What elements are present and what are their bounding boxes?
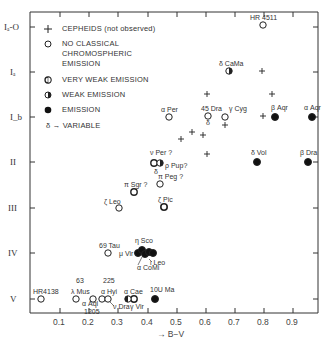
open-circle-icon: [260, 22, 266, 28]
label-zeta-leo: ζ Leo: [104, 198, 121, 206]
filled-circle-icon: [309, 114, 316, 121]
open-circle-icon: [73, 296, 79, 302]
open-circle-icon: [45, 41, 51, 47]
filled-circle-icon: [254, 159, 261, 166]
legend-no-emission-1: NO CLASSICAL: [62, 39, 119, 48]
open-circle-icon: [105, 296, 111, 302]
label-zeta-pic: ζ Pic: [158, 196, 173, 204]
label-45-dra: 45 Dra: [201, 105, 222, 112]
filled-circle-icon: [305, 159, 312, 166]
very-weak-circle-icon: [131, 296, 137, 302]
label-beta-aqr: β Aqr: [271, 104, 289, 112]
label-gamma-vir: γ Vir: [130, 303, 145, 311]
label-beta-dra: β Dra: [300, 149, 317, 157]
x-label-0.3: 0.3: [111, 317, 123, 327]
y-label-ib: I_b: [10, 112, 22, 122]
label-delta-cama: δ CaMa: [219, 60, 244, 67]
label-63: 63: [76, 277, 84, 284]
very-weak-circle-icon: [161, 204, 167, 210]
label-alpha-cae: α Cae: [124, 288, 143, 295]
half-filled-circle-icon: [45, 92, 51, 98]
open-circle-icon: [166, 114, 172, 120]
label-alpha-aqr: α Aqr: [304, 104, 322, 112]
plus-marker-icon: [269, 91, 275, 97]
y-label-ia: Iₐ: [10, 67, 16, 77]
y-label-iii: III: [8, 203, 17, 213]
very-weak-circle-icon: [151, 160, 157, 166]
plus-marker-icon: [204, 151, 210, 157]
label-nu-dra: ν Dra: [113, 303, 130, 310]
label-delta-vol: δ Vol: [251, 149, 267, 156]
plus-marker-icon: [260, 113, 266, 119]
open-circle-icon: [116, 205, 122, 211]
legend-emission: EMISSION: [62, 105, 100, 114]
hr-diagram-chart: Iₐ-O Iₐ I_b II III IV V 0.1 0.2 0.3 0.4 …: [0, 0, 332, 348]
label-alpha-aql: α Aql: [82, 300, 99, 308]
filled-circle-icon: [45, 107, 52, 114]
label-pi-peg: π Peg ?: [158, 173, 183, 181]
label-1205: 1205: [84, 308, 100, 315]
cepheid-markers: [178, 68, 275, 157]
label-alpha-comi: α CoMi: [137, 264, 160, 271]
legend-weak: WEAK EMISSION: [62, 90, 125, 99]
label-eta-sco: η Sco: [135, 237, 153, 245]
label-nu-per: ν Per ?: [150, 149, 172, 156]
y-label-ii: II: [10, 157, 16, 167]
open-circle-icon: [38, 296, 44, 302]
label-225: 225: [103, 277, 115, 284]
label-hr4138: HR4138: [33, 288, 59, 295]
label-pi-sgr: π Sgr ?: [124, 181, 148, 189]
plus-marker-icon: [178, 136, 184, 142]
label-rho-pup: ρ Pup?: [165, 162, 187, 170]
x-label-0.5: 0.5: [170, 317, 182, 327]
y-label-iao: Iₐ-O: [4, 22, 19, 32]
half-filled-circle-icon: [226, 68, 232, 74]
y-axis-labels: Iₐ-O Iₐ I_b II III IV V: [4, 22, 22, 304]
legend-cepheids: CEPHEIDS (not observed): [62, 24, 156, 33]
open-circle-icon: [157, 181, 163, 187]
x-label-0.7: 0.7: [228, 317, 240, 327]
filled-circle-icon: [152, 296, 159, 303]
very-weak-circle-icon: [131, 189, 137, 195]
open-circle-icon: [99, 296, 105, 302]
x-label-0.4: 0.4: [141, 317, 153, 327]
x-label-0.8: 0.8: [257, 317, 269, 327]
label-gamma-cyg: γ Cyg: [229, 105, 247, 113]
label-10-uma: 10U Ma: [150, 286, 175, 293]
label-variable-45dra: δ: [206, 119, 210, 126]
legend-very-weak: VERY WEAK EMISSION: [62, 75, 149, 84]
legend: CEPHEIDS (not observed) NO CLASSICAL CHR…: [44, 24, 156, 130]
plus-marker-icon: [204, 91, 210, 97]
x-label-0.9: 0.9: [286, 317, 298, 327]
x-label-0.6: 0.6: [199, 317, 211, 327]
y-label-v: V: [10, 294, 17, 304]
x-label-0.1: 0.1: [53, 317, 65, 327]
plus-marker-icon: [222, 122, 228, 128]
plus-marker-icon: [189, 129, 195, 135]
figure-caption-fragment: [6, 334, 326, 344]
y-label-iv: IV: [8, 248, 18, 258]
plus-marker-icon: [200, 132, 206, 138]
filled-circle-icon: [272, 114, 279, 121]
label-hr4511: HR 4511: [250, 14, 277, 21]
half-filled-circle-icon: [125, 296, 131, 302]
label-mu-vir: μ Vir: [119, 250, 134, 258]
very-weak-circle-icon: [45, 77, 51, 83]
label-lambda-mus: λ Mus: [71, 288, 90, 295]
half-filled-circle-icon: [157, 160, 163, 166]
plus-marker-icon: [259, 68, 265, 74]
open-circle-icon: [105, 250, 111, 256]
open-circle-icon: [222, 114, 228, 120]
legend-no-emission-2: CHROMOSPHERIC: [62, 49, 132, 58]
label-alpha-hyi: α Hyi: [101, 288, 118, 296]
plus-marker-icon: [44, 25, 52, 33]
legend-variable: δ → VARIABLE: [46, 121, 100, 130]
x-label-0.2: 0.2: [82, 317, 94, 327]
label-alpha-per: α Per: [161, 106, 179, 113]
filled-circle-icon: [150, 250, 157, 257]
legend-no-emission-3: EMISSION: [62, 59, 100, 68]
label-69-tau: 69 Tau: [99, 242, 120, 249]
